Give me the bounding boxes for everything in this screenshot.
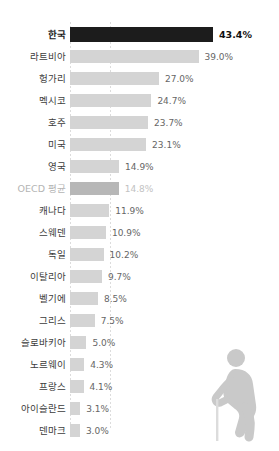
bar-row-label: 한국 bbox=[48, 24, 66, 46]
bar-row-label: OECD 평균 bbox=[18, 178, 66, 200]
bar-value-label: 10.9% bbox=[112, 222, 141, 244]
bar-value-label: 23.7% bbox=[154, 112, 183, 134]
bar-fill bbox=[70, 424, 80, 437]
bar-track: 39.0% bbox=[70, 46, 279, 68]
bar-value-label: 4.1% bbox=[90, 376, 113, 398]
bar-row: 영국14.9% bbox=[0, 156, 279, 178]
bar-track: 7.5% bbox=[70, 310, 279, 332]
bar-chart: 한국43.4%라트비아39.0%헝가리27.0%멕시코24.7%호주23.7%미… bbox=[0, 0, 279, 451]
bar-value-label: 5.0% bbox=[92, 332, 115, 354]
bar-fill bbox=[70, 336, 86, 349]
bar-track: 43.4% bbox=[70, 24, 279, 46]
bar-fill bbox=[70, 226, 106, 239]
bar-value-label: 9.7% bbox=[108, 266, 131, 288]
bar-row: 독일10.2% bbox=[0, 244, 279, 266]
bar-row-label: 벨기에 bbox=[39, 288, 66, 310]
bar-fill bbox=[70, 380, 84, 393]
bar-row-label: 노르웨이 bbox=[30, 354, 66, 376]
bar-row-label: 독일 bbox=[48, 244, 66, 266]
bar-value-label: 10.2% bbox=[110, 244, 139, 266]
bar-row: 한국43.4% bbox=[0, 24, 279, 46]
bar-row: OECD 평균14.8% bbox=[0, 178, 279, 200]
bar-row: 캐나다11.9% bbox=[0, 200, 279, 222]
bar-row: 벨기에8.5% bbox=[0, 288, 279, 310]
bar-fill bbox=[70, 204, 109, 217]
bar-fill bbox=[70, 27, 213, 42]
bar-row-label: 캐나다 bbox=[39, 200, 66, 222]
bar-row-label: 아이슬란드 bbox=[21, 398, 66, 420]
bar-row: 헝가리27.0% bbox=[0, 68, 279, 90]
bar-fill bbox=[70, 292, 98, 305]
bar-fill bbox=[70, 160, 119, 173]
bar-track: 8.5% bbox=[70, 288, 279, 310]
bar-row-label: 스웨덴 bbox=[39, 222, 66, 244]
bar-row: 멕시코24.7% bbox=[0, 90, 279, 112]
bar-fill bbox=[70, 50, 199, 63]
bar-track: 10.2% bbox=[70, 244, 279, 266]
bar-track: 23.7% bbox=[70, 112, 279, 134]
elderly-person-with-cane-icon bbox=[205, 347, 269, 443]
bar-value-label: 43.4% bbox=[219, 24, 252, 46]
bar-fill bbox=[70, 314, 95, 327]
bar-value-label: 14.9% bbox=[125, 156, 154, 178]
bar-value-label: 14.8% bbox=[125, 178, 154, 200]
bar-row: 라트비아39.0% bbox=[0, 46, 279, 68]
bar-row-label: 프랑스 bbox=[39, 376, 66, 398]
bar-track: 24.7% bbox=[70, 90, 279, 112]
bar-value-label: 3.1% bbox=[86, 398, 109, 420]
bar-fill bbox=[70, 94, 151, 107]
bar-fill bbox=[70, 358, 84, 371]
bar-row: 호주23.7% bbox=[0, 112, 279, 134]
bar-row-label: 라트비아 bbox=[30, 46, 66, 68]
bar-track: 14.9% bbox=[70, 156, 279, 178]
bar-track: 14.8% bbox=[70, 178, 279, 200]
bar-fill bbox=[70, 116, 148, 129]
bar-value-label: 8.5% bbox=[104, 288, 127, 310]
bar-value-label: 4.3% bbox=[90, 354, 113, 376]
bar-row-label: 멕시코 bbox=[39, 90, 66, 112]
bar-row: 스웨덴10.9% bbox=[0, 222, 279, 244]
bar-row: 미국23.1% bbox=[0, 134, 279, 156]
bar-value-label: 7.5% bbox=[101, 310, 124, 332]
bar-track: 27.0% bbox=[70, 68, 279, 90]
bar-value-label: 39.0% bbox=[205, 46, 234, 68]
bar-row-label: 덴마크 bbox=[39, 420, 66, 442]
bar-row-label: 이탈리아 bbox=[30, 266, 66, 288]
bar-row-label: 미국 bbox=[48, 134, 66, 156]
bar-track: 11.9% bbox=[70, 200, 279, 222]
bar-fill bbox=[70, 402, 80, 415]
bar-fill bbox=[70, 138, 146, 151]
bar-fill bbox=[70, 248, 104, 261]
bar-row-label: 헝가리 bbox=[39, 68, 66, 90]
bar-fill bbox=[70, 72, 159, 85]
bar-track: 23.1% bbox=[70, 134, 279, 156]
bar-value-label: 24.7% bbox=[157, 90, 186, 112]
bar-row: 이탈리아9.7% bbox=[0, 266, 279, 288]
bar-row-label: 그리스 bbox=[39, 310, 66, 332]
bar-fill bbox=[70, 270, 102, 283]
bar-track: 9.7% bbox=[70, 266, 279, 288]
bar-row-label: 슬로바키아 bbox=[21, 332, 66, 354]
bar-value-label: 27.0% bbox=[165, 68, 194, 90]
bar-value-label: 3.0% bbox=[86, 420, 109, 442]
bar-row: 그리스7.5% bbox=[0, 310, 279, 332]
bar-row-label: 호주 bbox=[48, 112, 66, 134]
bar-value-label: 23.1% bbox=[152, 134, 181, 156]
bar-fill bbox=[70, 182, 119, 195]
bar-track: 10.9% bbox=[70, 222, 279, 244]
bar-value-label: 11.9% bbox=[115, 200, 144, 222]
bar-row-label: 영국 bbox=[48, 156, 66, 178]
